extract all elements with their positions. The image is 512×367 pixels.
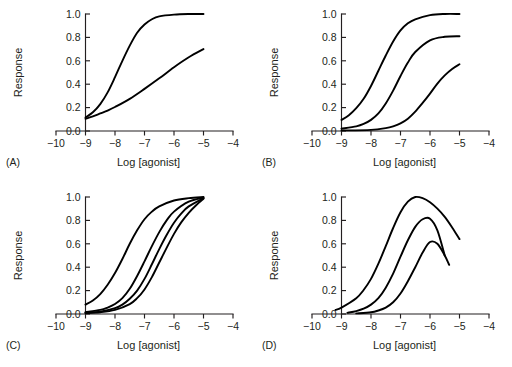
x-tick-label: −6: [168, 137, 180, 149]
y-tick-label: 0.8: [322, 214, 337, 226]
y-tick-label: 1.0: [66, 191, 81, 203]
x-tick-label: −9: [80, 137, 92, 149]
x-tick-label: −8: [365, 137, 377, 149]
y-tick-label: 0.4: [322, 261, 337, 273]
panel-c: −10−9−8−7−6−5−40.00.20.40.60.81.0Log [ag…: [0, 183, 256, 366]
y-tick-label: 0.8: [322, 31, 337, 43]
x-tick-label: −10: [47, 320, 65, 332]
x-tick-label: −10: [303, 320, 321, 332]
y-tick-label: 0.0: [66, 125, 81, 137]
y-tick-label: 0.6: [66, 238, 81, 250]
x-tick-label: −7: [395, 320, 407, 332]
y-tick-label: 0.0: [322, 308, 337, 320]
dose-response-curve: [86, 14, 204, 118]
panel-plot-a: −10−9−8−7−6−5−40.00.20.40.60.81.0Log [ag…: [0, 0, 256, 183]
y-tick-label: 0.2: [322, 101, 337, 113]
panel-label: (D): [262, 339, 277, 351]
y-tick-label: 1.0: [322, 8, 337, 20]
y-tick-label: 0.8: [66, 31, 81, 43]
x-tick-label: −8: [109, 320, 121, 332]
y-axis-title: Response: [268, 231, 280, 281]
y-axis-title: Response: [12, 48, 24, 98]
x-tick-label: −6: [424, 320, 436, 332]
x-axis-title: Log [agonist]: [373, 339, 436, 351]
y-tick-label: 0.2: [66, 101, 81, 113]
x-tick-label: −9: [80, 320, 92, 332]
y-tick-label: 1.0: [66, 8, 81, 20]
y-tick-label: 0.6: [322, 238, 337, 250]
x-tick-label: −7: [395, 137, 407, 149]
x-tick-label: −8: [109, 137, 121, 149]
x-tick-label: −7: [139, 137, 151, 149]
x-axis-title: Log [agonist]: [117, 156, 180, 168]
dose-response-curve: [336, 197, 460, 310]
x-tick-label: −7: [139, 320, 151, 332]
y-tick-label: 0.4: [66, 261, 81, 273]
y-tick-label: 0.0: [322, 125, 337, 137]
panel-b: −10−9−8−7−6−5−40.00.20.40.60.81.0Log [ag…: [256, 0, 512, 183]
x-tick-label: −5: [198, 137, 210, 149]
dose-response-curve: [86, 198, 204, 313]
y-tick-label: 0.4: [322, 78, 337, 90]
x-tick-label: −5: [454, 320, 466, 332]
panel-label: (B): [262, 156, 276, 168]
y-tick-label: 0.6: [322, 55, 337, 67]
panel-plot-d: −10−9−8−7−6−5−40.00.20.40.60.81.0Log [ag…: [256, 183, 512, 366]
dose-response-figure: −10−9−8−7−6−5−40.00.20.40.60.81.0Log [ag…: [0, 0, 512, 367]
dose-response-curve: [86, 49, 204, 119]
x-tick-label: −5: [198, 320, 210, 332]
dose-response-curve: [342, 36, 460, 128]
y-tick-label: 0.2: [322, 284, 337, 296]
x-tick-label: −9: [336, 137, 348, 149]
panel-label: (A): [6, 156, 20, 168]
panel-plot-b: −10−9−8−7−6−5−40.00.20.40.60.81.0Log [ag…: [256, 0, 512, 183]
x-tick-label: −10: [47, 137, 65, 149]
x-tick-label: −4: [483, 137, 495, 149]
x-tick-label: −8: [365, 320, 377, 332]
x-tick-label: −6: [168, 320, 180, 332]
x-axis-title: Log [agonist]: [117, 339, 180, 351]
panel-d: −10−9−8−7−6−5−40.00.20.40.60.81.0Log [ag…: [256, 183, 512, 366]
y-axis-title: Response: [268, 48, 280, 98]
x-tick-label: −9: [336, 320, 348, 332]
x-tick-label: −10: [303, 137, 321, 149]
y-tick-label: 0.6: [66, 55, 81, 67]
dose-response-curve: [86, 199, 204, 313]
x-tick-label: −4: [483, 320, 495, 332]
x-axis-title: Log [agonist]: [373, 156, 436, 168]
x-tick-label: −4: [227, 137, 239, 149]
y-tick-label: 0.2: [66, 284, 81, 296]
panel-label: (C): [6, 339, 21, 351]
dose-response-curve: [342, 14, 460, 120]
panel-a: −10−9−8−7−6−5−40.00.20.40.60.81.0Log [ag…: [0, 0, 256, 183]
x-tick-label: −5: [454, 137, 466, 149]
panel-plot-c: −10−9−8−7−6−5−40.00.20.40.60.81.0Log [ag…: [0, 183, 256, 366]
y-tick-label: 0.4: [66, 78, 81, 90]
y-tick-label: 0.0: [66, 308, 81, 320]
y-tick-label: 0.8: [66, 214, 81, 226]
y-axis-title: Response: [12, 231, 24, 281]
x-tick-label: −6: [424, 137, 436, 149]
x-tick-label: −4: [227, 320, 239, 332]
y-tick-label: 1.0: [322, 191, 337, 203]
